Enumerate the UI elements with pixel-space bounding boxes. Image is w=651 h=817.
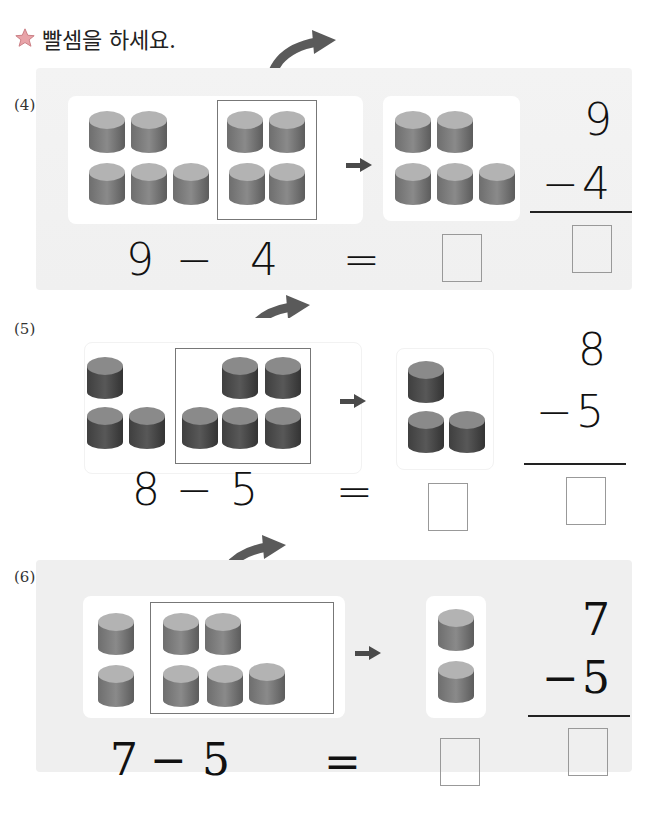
cylinder-icon — [248, 662, 286, 706]
cylinder-icon — [228, 162, 266, 206]
vertical-answer-box[interactable] — [568, 728, 608, 776]
minus-sign: − — [176, 468, 213, 512]
vertical-minus: − — [542, 656, 579, 700]
minuend: 9 — [126, 238, 154, 282]
cylinder-icon — [437, 660, 475, 704]
horizontal-answer-box[interactable] — [440, 738, 480, 786]
equals-sign: = — [343, 238, 380, 282]
cylinder-icon — [437, 608, 475, 652]
problem-label: (4) — [14, 96, 35, 114]
cylinder-icon — [88, 110, 126, 154]
subtrahend: 5 — [202, 738, 230, 782]
horizontal-answer-box[interactable] — [442, 234, 482, 282]
cylinder-icon — [264, 356, 302, 400]
vertical-top: 7 — [582, 598, 610, 642]
cylinder-icon — [162, 612, 200, 656]
problem-4-panel: 9 − 4 9 − 4 = — [36, 68, 632, 290]
star-icon — [14, 27, 36, 49]
right-arrow-icon — [340, 394, 366, 408]
vertical-top: 8 — [578, 328, 606, 372]
vertical-bottom: 5 — [582, 656, 610, 700]
vertical-minus: − — [536, 390, 573, 434]
cylinder-icon — [436, 110, 474, 154]
cylinder-icon — [268, 110, 306, 154]
cylinder-icon — [181, 406, 219, 450]
sum-line — [524, 463, 626, 465]
vertical-minus: − — [542, 162, 579, 206]
cylinder-icon — [130, 162, 168, 206]
problem-5-panel: 8 − 5 8 − 5 = — [36, 318, 632, 526]
problem-label: (5) — [14, 320, 35, 338]
subtrahend: 4 — [250, 238, 278, 282]
minuend: 8 — [132, 468, 160, 512]
cylinder-icon — [162, 664, 200, 708]
cylinder-icon — [221, 356, 259, 400]
cylinder-icon — [478, 162, 516, 206]
equals-sign: = — [336, 470, 373, 514]
instruction: 빨셈을 하세요. — [14, 22, 176, 54]
problem-label: (6) — [14, 568, 35, 586]
sum-line — [528, 715, 630, 717]
cylinder-icon — [206, 664, 244, 708]
cylinder-icon — [264, 406, 302, 450]
cylinder-icon — [407, 410, 445, 454]
cylinder-icon — [407, 360, 445, 404]
vertical-bottom: 5 — [576, 390, 604, 434]
cylinder-icon — [204, 612, 242, 656]
equals-sign: = — [324, 740, 361, 784]
subtrahend: 5 — [230, 468, 258, 512]
cylinder-icon — [88, 162, 126, 206]
cylinder-icon — [436, 162, 474, 206]
right-arrow-icon — [355, 646, 381, 660]
cylinder-icon — [226, 110, 264, 154]
cylinder-icon — [268, 162, 306, 206]
vertical-top: 9 — [584, 98, 612, 142]
problem-6-panel: 7 − 5 7 − 5 = — [36, 560, 632, 772]
cylinder-icon — [394, 110, 432, 154]
instruction-text: 빨셈을 하세요. — [42, 22, 176, 54]
sum-line — [530, 211, 632, 213]
cylinder-icon — [86, 406, 124, 450]
cylinder-icon — [130, 110, 168, 154]
cylinder-icon — [394, 162, 432, 206]
vertical-bottom: 4 — [582, 162, 610, 206]
minus-sign: − — [176, 238, 213, 282]
vertical-answer-box[interactable] — [572, 225, 612, 273]
minuend: 7 — [110, 738, 138, 782]
cylinder-icon — [221, 406, 259, 450]
cylinder-icon — [128, 406, 166, 450]
right-arrow-icon — [346, 158, 372, 172]
minus-sign: − — [150, 738, 187, 782]
cylinder-icon — [97, 664, 135, 708]
horizontal-answer-box[interactable] — [428, 483, 468, 531]
cylinder-icon — [97, 612, 135, 656]
cylinder-icon — [172, 162, 210, 206]
cylinder-icon — [448, 410, 486, 454]
vertical-answer-box[interactable] — [566, 477, 606, 525]
cylinder-icon — [86, 356, 124, 400]
